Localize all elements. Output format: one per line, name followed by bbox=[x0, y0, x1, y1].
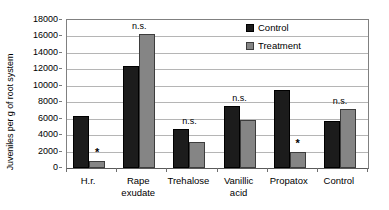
y-axis-tick-mark bbox=[59, 167, 62, 168]
y-axis-tick-label: 10000 bbox=[33, 80, 58, 89]
bar-treatment-rape-exudate bbox=[139, 34, 155, 168]
legend-swatch-icon bbox=[246, 24, 254, 32]
bar-control-trehalose bbox=[173, 129, 189, 168]
significance-asterisk: * bbox=[296, 139, 300, 147]
y-axis-tick-label: 2000 bbox=[38, 146, 58, 155]
y-axis-tick-mark bbox=[59, 52, 62, 53]
chart-legend: ControlTreatment bbox=[246, 20, 342, 56]
x-axis-tick-mark bbox=[267, 168, 268, 172]
legend-entry-control: Control bbox=[246, 20, 342, 35]
x-axis-label-control: Control bbox=[324, 175, 355, 187]
legend-entry-treatment: Treatment bbox=[246, 38, 342, 53]
y-axis-tick-label: 6000 bbox=[38, 113, 58, 122]
bar-treatment-trehalose bbox=[189, 142, 205, 168]
x-axis-label-h.r.: H.r. bbox=[81, 175, 96, 187]
bar-chart: Juveniles per g of root system 020004000… bbox=[0, 0, 389, 210]
y-axis-tick-mark bbox=[59, 19, 62, 20]
gridline bbox=[67, 102, 368, 103]
y-axis-tick-label: 16000 bbox=[33, 31, 58, 40]
x-axis-label-rape-exudate: Rape exudate bbox=[121, 175, 155, 199]
x-axis-label-trehalose: Trehalose bbox=[167, 175, 209, 187]
bar-treatment-vanillic-acid bbox=[240, 120, 256, 169]
y-axis-tick-mark bbox=[59, 85, 62, 86]
gridline bbox=[67, 69, 368, 70]
x-axis-label-vanillic-acid: Vanillic acid bbox=[224, 175, 253, 199]
x-axis-tick-mark bbox=[317, 168, 318, 172]
y-axis-tick-label: 8000 bbox=[38, 97, 58, 106]
y-axis-tick-mark bbox=[59, 101, 62, 102]
gridline bbox=[67, 119, 368, 120]
gridline bbox=[67, 152, 368, 153]
x-axis-tick-marks bbox=[66, 168, 369, 173]
gridline bbox=[67, 86, 368, 87]
y-axis-tick-mark bbox=[59, 151, 62, 152]
not-significant-label: n.s. bbox=[132, 21, 147, 31]
not-significant-label: n.s. bbox=[333, 96, 348, 106]
bar-control-control bbox=[324, 121, 340, 168]
y-axis-tick-label: 18000 bbox=[33, 15, 58, 24]
legend-swatch-icon bbox=[246, 42, 254, 50]
bar-control-propatox bbox=[274, 90, 290, 168]
y-axis-tick-label: 14000 bbox=[33, 47, 58, 56]
y-axis-tick-mark bbox=[59, 118, 62, 119]
x-axis-tick-mark bbox=[217, 168, 218, 172]
x-axis-label-propatox: Propatox bbox=[270, 175, 308, 187]
gridline bbox=[67, 135, 368, 136]
significance-asterisk: * bbox=[95, 148, 99, 156]
bar-treatment-propatox bbox=[290, 152, 306, 168]
y-axis-tick-mark bbox=[59, 134, 62, 135]
x-axis-tick-mark bbox=[166, 168, 167, 172]
bar-treatment-control bbox=[340, 109, 356, 168]
x-axis-tick-mark bbox=[367, 168, 368, 172]
y-axis-tick-labels: 0200040006000800010000120001400016000180… bbox=[14, 19, 62, 167]
x-axis-tick-mark bbox=[116, 168, 117, 172]
y-axis-tick-label: 12000 bbox=[33, 64, 58, 73]
bar-control-rape-exudate bbox=[123, 66, 139, 168]
x-axis-tick-mark bbox=[66, 168, 67, 172]
not-significant-label: n.s. bbox=[182, 116, 197, 126]
not-significant-label: n.s. bbox=[232, 93, 247, 103]
legend-label: Control bbox=[258, 23, 289, 33]
bar-control-h.r. bbox=[73, 116, 89, 168]
y-axis-tick-label: 0 bbox=[53, 163, 58, 172]
bar-control-vanillic-acid bbox=[224, 106, 240, 168]
x-axis-category-labels: H.r.Rape exudateTrehaloseVanillic acidPr… bbox=[66, 175, 367, 207]
legend-label: Treatment bbox=[258, 41, 301, 51]
y-axis-tick-mark bbox=[59, 35, 62, 36]
y-axis-tick-mark bbox=[59, 68, 62, 69]
y-axis-tick-label: 4000 bbox=[38, 130, 58, 139]
